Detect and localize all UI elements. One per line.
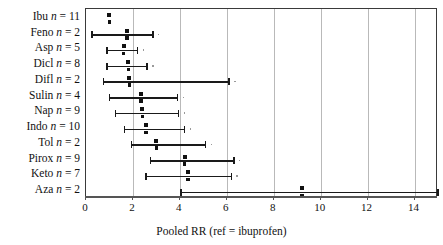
scan-speck: [158, 34, 160, 36]
ci-line: [92, 34, 153, 36]
ci-cap-low: [91, 31, 92, 38]
ci-cap-high: [228, 78, 229, 85]
gridline-x-8: [274, 9, 275, 197]
row-label-tol: Tol n = 2: [38, 135, 80, 149]
ci-line: [132, 144, 206, 146]
point-estimate-marker: [126, 60, 130, 64]
plot-area: [86, 9, 436, 197]
x-tick-4: [179, 196, 180, 200]
x-tick-12: [367, 196, 368, 200]
ci-cap-high: [146, 63, 147, 70]
row-label-dicl: Dicl n = 8: [34, 56, 80, 70]
point-estimate-marker: [154, 139, 158, 143]
ci-cap-high: [178, 110, 179, 117]
point-estimate-marker-shadow: [127, 68, 130, 71]
x-tick-0: [85, 196, 86, 200]
ci-line: [115, 113, 178, 115]
ci-cap-low: [145, 173, 146, 180]
ci-cap-high: [137, 47, 138, 54]
ci-cap-high: [177, 94, 178, 101]
x-tick-label-6: 6: [223, 201, 229, 213]
row-label-difl: Difl n = 2: [35, 72, 80, 86]
point-estimate-marker: [125, 29, 129, 33]
point-estimate-marker-shadow: [183, 162, 186, 165]
x-axis-label: Pooled RR (ref = ibuprofen): [0, 225, 443, 237]
ci-cap-low: [124, 126, 125, 133]
gridline-x-4: [180, 9, 181, 197]
ci-cap-high: [205, 141, 206, 148]
scan-speck: [183, 97, 185, 99]
scan-speck: [152, 65, 154, 67]
ci-line: [181, 192, 438, 194]
x-tick-label-8: 8: [270, 201, 276, 213]
point-estimate-marker-shadow: [125, 36, 128, 39]
row-label-nap: Nap n = 9: [34, 103, 80, 117]
ci-cap-low: [180, 189, 181, 196]
x-axis-line: [85, 196, 437, 198]
ci-line: [125, 129, 185, 131]
ci-cap-low: [131, 141, 132, 148]
x-tick-label-4: 4: [176, 201, 182, 213]
point-estimate-marker: [183, 155, 187, 159]
point-estimate-marker-shadow: [128, 83, 131, 86]
x-tick-label-0: 0: [82, 201, 88, 213]
gridline-x-12: [368, 9, 369, 197]
point-estimate-marker-shadow: [122, 52, 125, 55]
point-estimate-marker-shadow: [186, 178, 189, 181]
ci-cap-low: [115, 110, 116, 117]
point-estimate-marker: [144, 123, 148, 127]
x-tick-8: [273, 196, 274, 200]
row-label-feno: Feno n = 2: [30, 25, 80, 39]
plot-panel: [85, 8, 437, 197]
point-estimate-marker: [122, 44, 126, 48]
ci-cap-low: [103, 78, 104, 85]
scan-speck: [211, 144, 213, 146]
row-label-ibu: Ibu n = 11: [33, 9, 80, 23]
scan-speck: [190, 128, 192, 130]
point-estimate-marker-shadow: [155, 146, 158, 149]
ci-cap-high: [152, 31, 153, 38]
ci-cap-low: [106, 63, 107, 70]
x-tick-label-14: 14: [408, 201, 419, 213]
point-estimate-marker: [139, 92, 143, 96]
ci-cap-low: [109, 94, 110, 101]
ci-cap-high: [184, 126, 185, 133]
ci-line: [109, 97, 177, 99]
point-estimate-marker: [300, 186, 304, 190]
ci-line: [151, 160, 234, 162]
point-estimate-marker-shadow: [144, 131, 147, 134]
scan-speck: [239, 160, 241, 162]
ci-cap-high: [233, 157, 234, 164]
row-label-sulin: Sulin n = 4: [29, 88, 80, 102]
scan-speck: [184, 112, 186, 114]
ci-cap-low: [150, 157, 151, 164]
row-label-pirox: Pirox n = 9: [28, 151, 80, 165]
point-estimate-marker-shadow: [108, 20, 111, 23]
point-estimate-marker: [127, 76, 131, 80]
point-estimate-marker: [140, 107, 144, 111]
point-estimate-marker-shadow: [139, 99, 142, 102]
ci-cap-high: [231, 173, 232, 180]
row-label-keto: Keto n = 7: [31, 166, 80, 180]
x-tick-14: [414, 196, 415, 200]
scan-speck: [143, 49, 145, 51]
row-label-asp: Asp n = 5: [35, 40, 80, 54]
x-tick-2: [132, 196, 133, 200]
scan-speck: [234, 81, 236, 83]
x-tick-10: [320, 196, 321, 200]
x-tick-label-10: 10: [314, 201, 325, 213]
x-tick-6: [226, 196, 227, 200]
ci-cap-high: [437, 189, 438, 196]
gridline-x-14: [415, 9, 416, 197]
row-label-column: Ibu n = 11Feno n = 2Asp n = 5Dicl n = 8D…: [0, 0, 84, 197]
point-estimate-marker: [107, 13, 111, 17]
x-tick-label-2: 2: [129, 201, 135, 213]
gridline-x-2: [133, 9, 134, 197]
ci-line: [104, 81, 230, 83]
row-label-aza: Aza n = 2: [35, 182, 80, 196]
gridline-x-6: [227, 9, 228, 197]
point-estimate-marker-shadow: [141, 115, 144, 118]
gridline-x-10: [321, 9, 322, 197]
ci-cap-low: [106, 47, 107, 54]
row-label-indo: Indo n = 10: [27, 119, 80, 133]
